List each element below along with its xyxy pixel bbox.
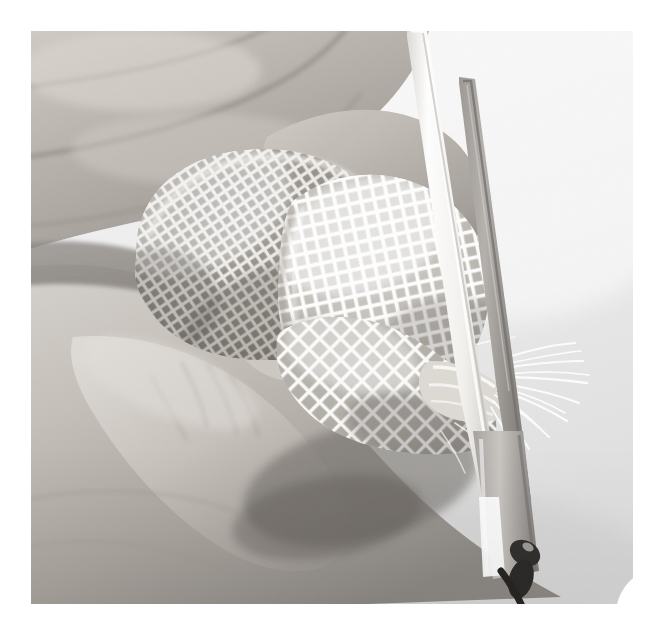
figure-root: 8 — [0, 0, 662, 633]
step-number-label: 8 — [626, 578, 633, 604]
photo-canvas — [31, 31, 633, 604]
photo-vignette — [31, 31, 633, 604]
instructional-photo: 8 — [31, 31, 633, 604]
